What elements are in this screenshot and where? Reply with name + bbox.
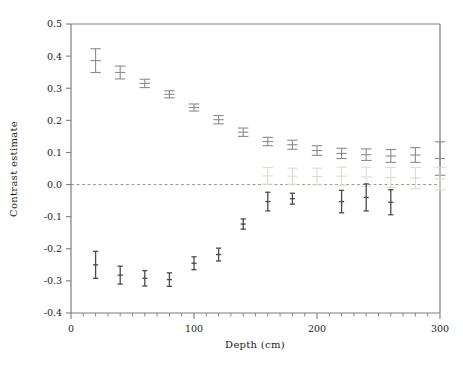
y-tick-label: -0.2: [44, 243, 62, 254]
y-axis-title: Contrast estimate: [8, 121, 19, 217]
contrast-estimate-scatter-chart: 0100200300 -0.4-0.3-0.2-0.10.00.10.20.30…: [0, 0, 463, 369]
x-tick-label: 100: [185, 323, 203, 334]
y-tick-label: 0.2: [47, 115, 62, 126]
y-tick-label: 0.0: [47, 179, 62, 190]
x-axis-title: Depth (cm): [225, 339, 285, 350]
x-tick-label: 200: [308, 323, 326, 334]
y-tick-label: -0.1: [44, 211, 62, 222]
figure-container: 0100200300 -0.4-0.3-0.2-0.10.00.10.20.30…: [0, 0, 463, 369]
y-tick-label: 0.5: [47, 18, 62, 29]
y-tick-label: -0.3: [44, 275, 62, 286]
y-tick-label: 0.4: [47, 51, 62, 62]
y-tick-label: 0.1: [47, 147, 62, 158]
y-tick-label: 0.3: [47, 83, 62, 94]
x-tick-label: 300: [431, 323, 449, 334]
x-tick-label: 0: [68, 323, 74, 334]
y-tick-label: -0.4: [44, 307, 62, 318]
